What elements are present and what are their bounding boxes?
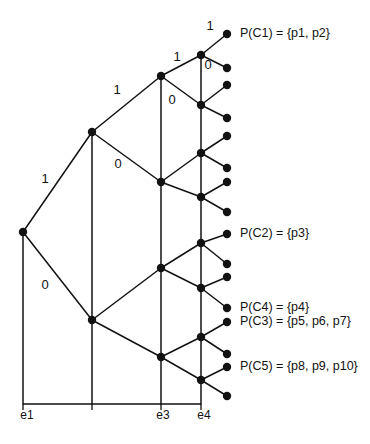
cluster-label-pc1: P(C1) = {p1, p2}	[240, 26, 330, 40]
tree-leaf-l2[interactable]	[223, 64, 231, 72]
edge-label-lbl-n11-1: 1	[173, 49, 180, 64]
tree-node-n011[interactable]	[197, 239, 205, 247]
tree-edge-n101-l6	[201, 153, 227, 168]
tree-edge-root-n1	[23, 132, 92, 232]
cluster-label-pc5: P(C5) = {p8, p9, p10}	[240, 359, 358, 373]
tree-edge-n11-n111	[161, 55, 201, 76]
tree-leaf-l11[interactable]	[223, 273, 231, 281]
tree-edge-n111-l1	[201, 34, 227, 55]
tree-edge-n110-l3	[201, 85, 227, 105]
tree-edge-n010-l11	[201, 277, 227, 288]
tree-node-n010[interactable]	[197, 284, 205, 292]
tree-leaf-l10[interactable]	[223, 260, 231, 268]
edge-label-lbl-n111-1: 1	[206, 18, 213, 33]
tree-edge-n100-l8	[201, 197, 227, 212]
tree-node-n100[interactable]	[197, 193, 205, 201]
edge-label-lbl-root-0: 0	[41, 277, 48, 292]
tree-edge-n001-l14	[201, 337, 227, 354]
edge-label-lbl-root-1: 1	[41, 171, 48, 186]
tree-node-n00[interactable]	[157, 353, 165, 361]
tree-node-n01[interactable]	[157, 264, 165, 272]
tree-node-root[interactable]	[19, 228, 27, 236]
tree-edge-n100-l7	[201, 182, 227, 197]
tree-leaf-l5[interactable]	[223, 132, 231, 140]
tree-node-n11[interactable]	[157, 72, 165, 80]
tree-edge-n00-n000	[161, 357, 201, 380]
tree-edge-n10-n100	[161, 182, 201, 197]
tree-node-n000[interactable]	[197, 376, 205, 384]
tree-leaf-l1[interactable]	[223, 30, 231, 38]
tree-edge-n1-n10	[92, 132, 161, 182]
edge-label-lbl-n1-1: 1	[113, 82, 120, 97]
tree-canvas: 10101010 e1e3e4 P(C1) = {p1, p2}P(C2) = …	[0, 0, 370, 444]
edge-label-lbl-n111-0: 0	[204, 57, 211, 72]
tree-edge-n101-l5	[201, 136, 227, 153]
tree-edge-n011-l10	[201, 243, 227, 264]
tree-edge-n01-n011	[161, 243, 201, 268]
tree-edge-n000-l15	[201, 367, 227, 380]
edge-label-lbl-n11-0: 0	[168, 92, 175, 107]
tree-leaf-l14[interactable]	[223, 350, 231, 358]
axis-label-e1: e1	[20, 408, 34, 422]
tree-leaf-l12[interactable]	[223, 304, 231, 312]
tree-edges-group	[23, 34, 227, 396]
tree-leaf-l16[interactable]	[223, 392, 231, 400]
axis-group	[23, 404, 201, 410]
tree-edge-n00-n001	[161, 337, 201, 357]
cluster-labels-group: P(C1) = {p1, p2}P(C2) = {p3}P(C4) = {p4}…	[240, 26, 358, 373]
tree-nodes-group	[19, 51, 205, 384]
tree-edge-n01-n010	[161, 268, 201, 288]
tree-leaf-l13[interactable]	[223, 318, 231, 326]
axis-label-e4: e4	[197, 408, 211, 422]
tree-edge-n1-n11	[92, 76, 161, 132]
cluster-label-pc3: P(C3) = {p5, p6, p7}	[240, 314, 351, 328]
binary-decision-tree-diagram: 10101010 e1e3e4 P(C1) = {p1, p2}P(C2) = …	[0, 0, 370, 444]
tree-edge-n0-n00	[92, 320, 161, 357]
tree-node-n001[interactable]	[197, 333, 205, 341]
tree-leaf-l15[interactable]	[223, 363, 231, 371]
tree-leaf-l8[interactable]	[223, 208, 231, 216]
tree-edge-n0-n01	[92, 268, 161, 320]
edge-label-lbl-n1-0: 0	[114, 156, 121, 171]
tree-leaf-l7[interactable]	[223, 178, 231, 186]
tree-edge-n10-n101	[161, 153, 201, 182]
tree-node-n101[interactable]	[197, 149, 205, 157]
tree-leaf-l6[interactable]	[223, 164, 231, 172]
axis-label-e3: e3	[156, 408, 170, 422]
tree-node-n10[interactable]	[157, 178, 165, 186]
tree-edge-n000-l16	[201, 380, 227, 396]
cluster-label-pc4: P(C4) = {p4}	[240, 300, 309, 314]
cluster-label-pc2: P(C2) = {p3}	[240, 226, 309, 240]
tree-edge-n11-n110	[161, 76, 201, 105]
tree-node-n110[interactable]	[197, 101, 205, 109]
tree-leaf-l4[interactable]	[223, 114, 231, 122]
tree-node-n0[interactable]	[88, 316, 96, 324]
tree-leaves-group	[223, 30, 231, 400]
tree-edge-n110-l4	[201, 105, 227, 118]
axis-labels-group: e1e3e4	[20, 408, 211, 422]
tree-leaf-l9[interactable]	[223, 230, 231, 238]
tree-edge-n001-l13	[201, 322, 227, 337]
tree-leaf-l3[interactable]	[223, 81, 231, 89]
tree-edge-root-n0	[23, 232, 92, 320]
tree-edge-n010-l12	[201, 288, 227, 308]
tree-node-n1[interactable]	[88, 128, 96, 136]
